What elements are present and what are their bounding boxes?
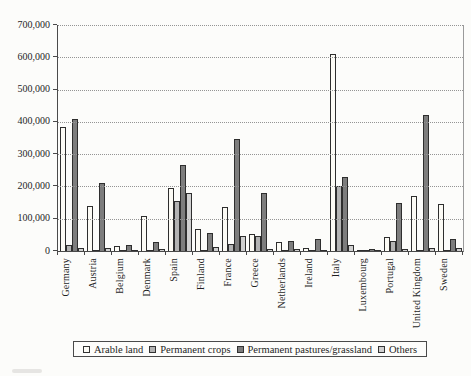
bar-group-luxembourg [355,25,382,251]
x-axis-label-united-kingdom: United Kingdom [411,258,422,328]
x-axis-tick [354,252,355,255]
bar-others [132,250,138,251]
y-axis-tick [53,153,57,154]
legend-item: Permanent crops [149,344,230,355]
x-axis-label-portugal: Portugal [384,258,395,294]
x-axis-label-italy: Italy [330,258,341,277]
bar-permanent-pastures-grassland [342,177,348,251]
bar-group-netherlands [274,25,301,251]
x-axis-label-belgium: Belgium [114,258,125,294]
x-axis-label-luxembourg: Luxembourg [357,258,368,311]
bar-others [159,249,165,251]
bar-others [456,248,462,251]
y-axis-label: 700,000 [18,19,51,30]
x-axis-tick [219,252,220,255]
y-axis-tick [53,24,57,25]
bar-group-sweden [436,25,463,251]
plot-area [57,25,464,252]
bar-group-ireland [301,25,328,251]
legend-swatch-arable-land [83,346,90,353]
bar-group-italy [328,25,355,251]
bar-others [321,250,327,251]
y-axis-label: 500,000 [18,83,51,94]
bar-others [240,236,246,251]
bar-arable-land [438,204,444,251]
gridline [58,57,463,58]
bar-permanent-pastures-grassland [261,193,267,251]
y-axis-label: 400,000 [18,115,51,126]
legend-item: Arable land [83,344,143,355]
y-axis-label: 600,000 [18,51,51,62]
bar-others [294,249,300,251]
y-axis-tick [53,250,57,251]
bar-permanent-pastures-grassland [396,203,402,251]
legend-label: Permanent crops [160,344,230,355]
y-axis-tick [53,56,57,57]
y-axis-label: 200,000 [18,180,51,191]
y-axis-tick [53,185,57,186]
x-axis-tick [462,252,463,255]
bar-others [213,247,219,251]
gridline [58,122,463,123]
legend-item: Others [378,344,417,355]
y-axis-label: 0 [45,245,50,256]
bar-permanent-pastures-grassland [99,183,105,251]
bar-group-germany [58,25,85,251]
x-axis-tick [57,252,58,255]
legend-box: Arable landPermanent cropsPermanent past… [73,341,427,357]
bar-group-austria [85,25,112,251]
bar-group-belgium [112,25,139,251]
legend-label: Others [389,344,417,355]
x-axis-label-ireland: Ireland [303,258,314,288]
bar-group-portugal [382,25,409,251]
bar-others [105,248,111,251]
bar-others [429,248,435,251]
legend-item: Permanent pastures/grassland [237,344,373,355]
legend-label: Arable land [94,344,143,355]
bar-arable-land [411,196,417,251]
bar-permanent-pastures-grassland [423,115,429,251]
gridline [58,25,463,26]
bars-layer [58,25,463,251]
bar-group-spain [166,25,193,251]
x-axis-label-france: France [222,258,233,286]
x-axis-label-germany: Germany [60,258,71,297]
bar-others [186,193,192,251]
bar-group-greece [247,25,274,251]
x-axis-label-denmark: Denmark [141,258,152,297]
bar-others [348,245,354,251]
figure-scan: Arable landPermanent cropsPermanent past… [0,0,471,376]
y-axis-label: 300,000 [18,148,51,159]
bar-arable-land [60,127,66,251]
x-axis-label-austria: Austria [87,258,98,289]
gridline [58,219,463,220]
x-axis-tick [300,252,301,255]
x-axis-tick [111,252,112,255]
x-axis-tick [192,252,193,255]
x-axis-tick [138,252,139,255]
scan-artifact [12,369,42,373]
x-axis-tick [408,252,409,255]
x-axis-label-netherlands: Netherlands [276,258,287,309]
bar-group-denmark [139,25,166,251]
x-axis-tick [327,252,328,255]
legend-label: Permanent pastures/grassland [248,344,373,355]
bar-group-france [220,25,247,251]
legend-swatch-permanent-crops [149,346,156,353]
x-axis-label-sweden: Sweden [438,258,449,291]
x-axis-tick [165,252,166,255]
x-axis-label-finland: Finland [195,258,206,290]
bar-arable-land [87,206,93,251]
bar-others [267,249,273,251]
x-axis-tick [273,252,274,255]
x-axis-tick [84,252,85,255]
y-axis-tick [53,218,57,219]
x-axis-tick [381,252,382,255]
y-axis-tick [53,89,57,90]
y-axis-tick [53,121,57,122]
x-axis-tick [246,252,247,255]
x-axis-label-greece: Greece [249,258,260,288]
bar-others [402,249,408,251]
bar-arable-land [141,216,147,251]
bar-group-united-kingdom [409,25,436,251]
